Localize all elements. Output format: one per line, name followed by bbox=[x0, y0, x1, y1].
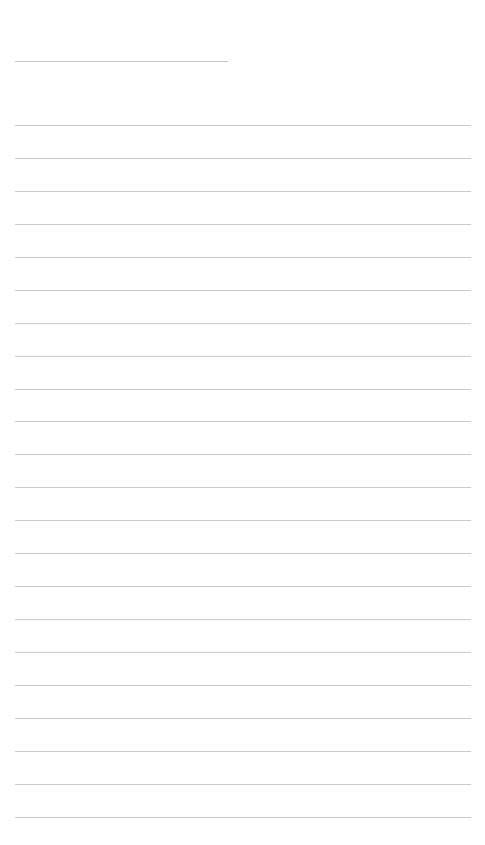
text-layer bbox=[0, 0, 485, 845]
body-rules-layer bbox=[0, 0, 485, 845]
body-rule-line bbox=[15, 817, 471, 818]
body-rule-line bbox=[15, 323, 471, 324]
body-rule-line bbox=[15, 290, 471, 291]
body-rule-line bbox=[15, 586, 471, 587]
body-rule-line bbox=[15, 125, 471, 126]
body-rule-line bbox=[15, 652, 471, 653]
body-rule-line bbox=[15, 257, 471, 258]
title-underline-rule bbox=[15, 61, 228, 62]
body-rule-line bbox=[15, 158, 471, 159]
body-rule-line bbox=[15, 685, 471, 686]
body-rule-line bbox=[15, 520, 471, 521]
document-page bbox=[0, 0, 485, 845]
body-rule-line bbox=[15, 389, 471, 390]
body-rule-line bbox=[15, 191, 471, 192]
body-rule-line bbox=[15, 224, 471, 225]
body-rule-line bbox=[15, 718, 471, 719]
body-rule-line bbox=[15, 751, 471, 752]
body-rule-line bbox=[15, 454, 471, 455]
body-rule-line bbox=[15, 553, 471, 554]
body-rule-line bbox=[15, 619, 471, 620]
body-rule-line bbox=[15, 421, 471, 422]
body-rule-line bbox=[15, 784, 471, 785]
body-rule-line bbox=[15, 487, 471, 488]
body-rule-line bbox=[15, 356, 471, 357]
